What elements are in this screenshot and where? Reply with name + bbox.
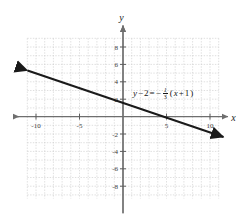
x-tick-label: 10 [207,122,215,130]
x-tick-label: -10 [31,122,41,130]
x-tick-label: -5 [77,122,83,130]
y-tick-label: 4 [115,78,119,86]
y-tick-label: 6 [115,61,119,69]
x-axis-label: x [230,112,236,123]
y-tick-label: -4 [112,148,118,156]
y-tick-label: -8 [112,183,118,191]
y-axis-label: y [118,12,124,23]
y-tick-label: 8 [115,44,119,52]
y-tick-label: -2 [112,131,118,139]
plotted-line [28,71,224,138]
x-tick-label: 5 [165,122,169,130]
y-tick-label: -6 [112,165,118,173]
coordinate-plane-svg: -10 -5 5 10 8 6 4 2 -2 -4 -6 -8 x y [0,0,246,223]
graph-figure: -10 -5 5 10 8 6 4 2 -2 -4 -6 -8 x y y − … [0,0,246,223]
